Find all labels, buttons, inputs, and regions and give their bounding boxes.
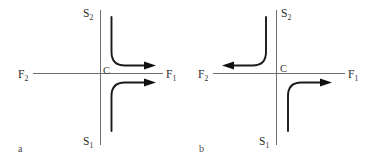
panel-a-upper-trajectory <box>112 17 147 66</box>
panel-a-upper-arrowhead <box>144 61 156 69</box>
panel-a-label-F1: F1 <box>166 68 176 83</box>
panel-a-label-C: C <box>103 65 110 76</box>
panel-b-caption: b <box>199 143 204 154</box>
flow-diagram-svg: F2 F1 S2 S1 C a F2 F1 S2 S1 C <box>0 0 375 165</box>
panel-b: F2 F1 S2 S1 C b <box>198 7 358 154</box>
panel-a-label-S1: S1 <box>83 135 93 150</box>
panel-b-lower-arrowhead <box>320 78 332 86</box>
panel-a-lower-trajectory <box>112 83 147 132</box>
panel-b-label-S2: S2 <box>281 7 291 22</box>
panel-b-upper-trajectory <box>232 17 266 66</box>
panel-a-label-F2: F2 <box>18 68 28 83</box>
panel-b-lower-trajectory <box>288 83 322 132</box>
panel-b-label-F2: F2 <box>198 68 208 83</box>
panel-b-label-S1: S1 <box>259 135 269 150</box>
panel-a-lower-arrowhead <box>144 78 156 86</box>
panel-a-caption: a <box>18 143 23 154</box>
panel-a-label-S2: S2 <box>83 7 93 22</box>
panel-b-upper-arrowhead <box>222 61 234 69</box>
panel-a: F2 F1 S2 S1 C a <box>18 7 176 154</box>
panel-b-label-F1: F1 <box>348 68 358 83</box>
panel-b-label-C: C <box>280 63 287 74</box>
figure-container: F2 F1 S2 S1 C a F2 F1 S2 S1 C <box>0 0 375 165</box>
